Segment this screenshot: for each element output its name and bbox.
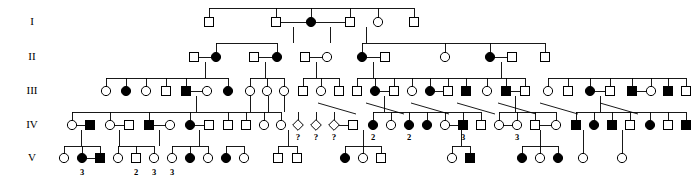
individual-IV-10-square-unaffected[interactable] xyxy=(242,121,251,130)
individual-IV-22-square-affected[interactable] xyxy=(459,121,468,130)
individual-I-2-square-unaffected[interactable] xyxy=(272,18,281,27)
individual-V-1-circle-unaffected[interactable] xyxy=(59,153,68,162)
individual-III-19-square-unaffected[interactable] xyxy=(444,87,453,96)
individual-IV-27-circle-unaffected[interactable] xyxy=(551,120,560,129)
individual-III-4-square-unaffected[interactable] xyxy=(162,87,171,96)
individual-II-4-circle-affected[interactable] xyxy=(272,52,281,61)
individual-III-12-circle-unaffected[interactable] xyxy=(316,86,325,95)
individual-IV-30-square-affected[interactable] xyxy=(608,121,617,130)
individual-III-27-square-unaffected[interactable] xyxy=(606,87,615,96)
individual-IV-11-circle-unaffected[interactable] xyxy=(259,120,268,129)
individual-II-2-circle-affected[interactable] xyxy=(211,52,220,61)
individual-I-4-square-unaffected[interactable] xyxy=(346,18,355,27)
individual-IV-17-circle-affected[interactable] xyxy=(368,120,377,129)
individual-IV-18-circle-unaffected[interactable] xyxy=(386,120,395,129)
individual-V-15-circle-unaffected[interactable] xyxy=(358,153,367,162)
individual-III-13-square-unaffected[interactable] xyxy=(335,87,344,96)
individual-III-6-circle-unaffected[interactable] xyxy=(202,86,211,95)
individual-V-17-circle-unaffected[interactable] xyxy=(447,153,456,162)
individual-II-3-square-unaffected[interactable] xyxy=(250,53,259,62)
individual-IV-28-square-affected[interactable] xyxy=(572,121,581,130)
individual-IV-9-square-unaffected[interactable] xyxy=(224,121,233,130)
individual-V-16-square-unaffected[interactable] xyxy=(377,154,386,163)
individual-V-22-circle-unaffected[interactable] xyxy=(578,153,587,162)
individual-IV-33-square-unaffected[interactable] xyxy=(664,121,673,130)
individual-IV-21-circle-unaffected[interactable] xyxy=(440,120,449,129)
individual-V-21-circle-affected[interactable] xyxy=(553,153,562,162)
individual-V-5-square-unaffected[interactable] xyxy=(132,154,141,163)
individual-III-7-circle-affected[interactable] xyxy=(223,86,232,95)
individual-IV-19-circle-affected[interactable] xyxy=(404,120,413,129)
individual-III-26-circle-affected[interactable] xyxy=(585,86,594,95)
individual-IV-1-circle-unaffected[interactable] xyxy=(67,120,76,129)
individual-V-19-circle-affected[interactable] xyxy=(517,153,526,162)
individual-II-12-square-unaffected[interactable] xyxy=(541,53,550,62)
individual-III-2-circle-affected[interactable] xyxy=(121,86,130,95)
individual-I-1-square-unaffected[interactable] xyxy=(205,18,214,27)
individual-V-23-circle-unaffected[interactable] xyxy=(617,153,626,162)
individual-IV-32-circle-affected[interactable] xyxy=(645,120,654,129)
individual-IV-8-square-unaffected[interactable] xyxy=(205,121,214,130)
individual-III-18-circle-affected[interactable] xyxy=(425,86,434,95)
individual-V-11-circle-unaffected[interactable] xyxy=(239,153,248,162)
individual-IV-31-square-unaffected[interactable] xyxy=(626,121,635,130)
individual-V-10-circle-affected[interactable] xyxy=(221,153,230,162)
individual-IV-25-circle-unaffected[interactable] xyxy=(512,120,521,129)
individual-III-22-square-affected[interactable] xyxy=(502,87,511,96)
individual-IV-3-circle-unaffected[interactable] xyxy=(105,120,114,129)
individual-IV-20-circle-affected[interactable] xyxy=(422,120,431,129)
individual-IV-16-square-unaffected[interactable] xyxy=(349,121,358,130)
individual-III-16-square-unaffected[interactable] xyxy=(390,87,399,96)
individual-III-15-circle-affected[interactable] xyxy=(370,86,379,95)
individual-III-11-square-unaffected[interactable] xyxy=(299,87,308,96)
individual-III-9-circle-unaffected[interactable] xyxy=(262,86,271,95)
individual-III-23-square-unaffected[interactable] xyxy=(521,87,530,96)
individual-III-17-circle-unaffected[interactable] xyxy=(407,86,416,95)
individual-V-3-square-affected[interactable] xyxy=(96,154,105,163)
individual-I-6-square-unaffected[interactable] xyxy=(410,18,419,27)
individual-II-5-square-unaffected[interactable] xyxy=(301,53,310,62)
individual-III-31-square-unaffected[interactable] xyxy=(682,87,691,96)
individual-V-6-circle-unaffected[interactable] xyxy=(149,153,158,162)
individual-V-2-circle-affected[interactable] xyxy=(77,153,86,162)
individual-IV-23-square-unaffected[interactable] xyxy=(477,121,486,130)
individual-V-20-circle-unaffected[interactable] xyxy=(535,153,544,162)
individual-II-8-square-unaffected[interactable] xyxy=(381,53,390,62)
individual-III-21-circle-unaffected[interactable] xyxy=(482,86,491,95)
individual-IV-15-diamond-unaffected[interactable] xyxy=(329,120,340,131)
individual-II-7-circle-affected[interactable] xyxy=(357,52,366,61)
individual-IV-26-square-unaffected[interactable] xyxy=(531,121,540,130)
individual-IV-5-square-affected[interactable] xyxy=(145,121,154,130)
individual-III-24-circle-unaffected[interactable] xyxy=(543,86,552,95)
individual-III-1-circle-unaffected[interactable] xyxy=(101,86,110,95)
individual-IV-13-diamond-unaffected[interactable] xyxy=(293,120,304,131)
individual-I-3-circle-affected[interactable] xyxy=(306,17,315,26)
individual-III-28-square-affected[interactable] xyxy=(628,87,637,96)
individual-III-3-circle-unaffected[interactable] xyxy=(141,86,150,95)
individual-IV-34-square-affected[interactable] xyxy=(682,121,691,130)
individual-IV-6-circle-unaffected[interactable] xyxy=(165,120,174,129)
individual-V-4-circle-unaffected[interactable] xyxy=(113,153,122,162)
individual-III-14-square-unaffected[interactable] xyxy=(353,87,362,96)
individual-III-20-square-affected[interactable] xyxy=(462,87,471,96)
individual-III-29-circle-unaffected[interactable] xyxy=(646,86,655,95)
individual-III-30-square-affected[interactable] xyxy=(664,87,673,96)
individual-V-8-circle-affected[interactable] xyxy=(185,153,194,162)
individual-IV-7-circle-affected[interactable] xyxy=(185,120,194,129)
individual-V-18-square-affected[interactable] xyxy=(466,154,475,163)
individual-III-25-square-unaffected[interactable] xyxy=(564,87,573,96)
individual-IV-14-diamond-unaffected[interactable] xyxy=(311,120,322,131)
individual-III-8-circle-unaffected[interactable] xyxy=(245,86,254,95)
individual-II-10-circle-affected[interactable] xyxy=(485,52,494,61)
individual-V-9-circle-unaffected[interactable] xyxy=(203,153,212,162)
individual-II-9-circle-unaffected[interactable] xyxy=(440,52,449,61)
individual-IV-12-circle-unaffected[interactable] xyxy=(276,120,285,129)
individual-V-14-circle-affected[interactable] xyxy=(340,153,349,162)
individual-IV-29-circle-affected[interactable] xyxy=(589,120,598,129)
individual-IV-2-square-affected[interactable] xyxy=(86,121,95,130)
individual-V-7-circle-unaffected[interactable] xyxy=(167,153,176,162)
individual-III-10-circle-unaffected[interactable] xyxy=(279,86,288,95)
individual-V-12-square-unaffected[interactable] xyxy=(274,154,283,163)
individual-II-11-square-unaffected[interactable] xyxy=(508,53,517,62)
individual-IV-24-circle-unaffected[interactable] xyxy=(494,120,503,129)
